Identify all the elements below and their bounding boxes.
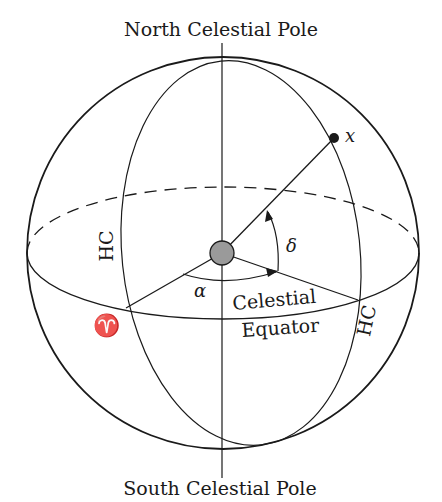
declination-label: δ xyxy=(286,235,297,256)
right-ascension-arrowhead xyxy=(266,268,278,277)
earth-icon xyxy=(210,241,234,265)
equator-label-line2: Equator xyxy=(241,314,321,341)
north-pole-label: North Celestial Pole xyxy=(124,18,318,40)
celestial-sphere-diagram: North Celestial Pole South Celestial Pol… xyxy=(0,0,442,502)
right-ascension-label: α xyxy=(194,280,206,301)
star-point-icon xyxy=(329,133,339,143)
declination-arc xyxy=(268,212,278,271)
star-label: x xyxy=(345,125,355,146)
hour-circle xyxy=(102,49,379,458)
vernal-equinox-icon: ♈ xyxy=(93,312,120,338)
star-direction-line xyxy=(222,138,334,253)
equator-label-line1: Celestial xyxy=(231,285,317,314)
south-pole-label: South Celestial Pole xyxy=(123,477,316,499)
hour-circle-label-left: HC xyxy=(95,230,117,261)
hour-circle-label-right: HC xyxy=(352,303,380,338)
vernal-equinox-line xyxy=(126,253,222,308)
